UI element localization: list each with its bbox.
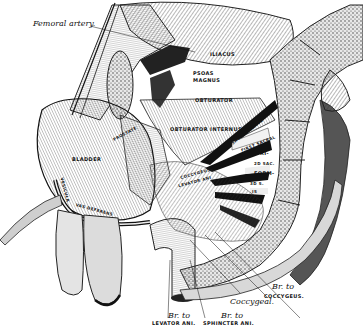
label-br-to-levator-ani: LEVATOR ANI. <box>152 321 195 326</box>
label-pyri: PYRI- <box>252 151 269 156</box>
label-psoas: PSOAS <box>193 71 214 76</box>
label-br-to-levator-prefix: Br. to <box>168 312 190 320</box>
label-form: FORM- <box>254 171 275 176</box>
anatomical-illustration <box>0 0 363 330</box>
label-magnus: MAGNUS <box>193 78 220 83</box>
label-iliacus: ILIACUS <box>210 52 235 57</box>
label-is: IS <box>252 190 257 194</box>
label-coccygeal: Coccygeal. <box>230 298 274 306</box>
label-br-to-sphincter-ani: SPHINCTER ANI. <box>203 321 254 326</box>
label-br-to-coccygeus-prefix: Br. to <box>272 283 294 291</box>
label-obturator: OBTURATOR <box>195 98 233 103</box>
label-br-to-sphincter-prefix: Br. to <box>221 312 243 320</box>
label-second-sac: 2D SAC. <box>254 162 275 166</box>
label-obturator-internus: OBTURATOR INTERNUS <box>170 127 242 132</box>
label-third-s: 3D S. <box>250 182 264 186</box>
label-bladder: BLADDER <box>72 157 101 162</box>
label-femoral-artery: Femoral artery. <box>33 20 95 28</box>
